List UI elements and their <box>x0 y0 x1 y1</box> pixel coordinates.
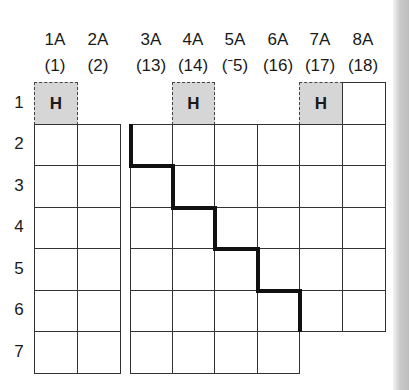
cell <box>172 165 215 208</box>
stair-segment <box>171 164 175 209</box>
cell <box>172 290 215 332</box>
cell <box>130 165 173 208</box>
cell <box>214 248 258 291</box>
cell <box>257 207 300 249</box>
group-label-5a: 5A <box>213 30 257 50</box>
cell <box>299 290 343 332</box>
cell <box>77 124 121 166</box>
cell <box>299 248 343 291</box>
group-number-16: (16) <box>254 56 302 76</box>
page-edge-shadow <box>393 0 409 390</box>
cell <box>214 331 258 374</box>
cell <box>342 165 386 208</box>
cell <box>342 124 386 166</box>
period-label-3: 3 <box>12 176 26 196</box>
hydrogen-cell-4a: H <box>172 82 215 125</box>
cell <box>172 124 215 166</box>
cell <box>77 248 121 291</box>
cell <box>77 331 121 374</box>
group-label-6a: 6A <box>256 30 300 50</box>
cell <box>130 124 173 166</box>
group-number-18: (18) <box>339 56 387 76</box>
cell <box>257 331 300 374</box>
group-label-2a: 2A <box>76 30 120 50</box>
cell <box>172 207 215 249</box>
group-number-17: (17) <box>296 56 344 76</box>
period-label-1: 1 <box>12 93 26 113</box>
hydrogen-cell-1a: H <box>34 82 78 125</box>
stair-segment <box>256 247 260 292</box>
cell <box>257 165 300 208</box>
cell <box>77 165 121 208</box>
group-number-15: (ˉ5) <box>211 56 259 76</box>
cell <box>172 248 215 291</box>
cell <box>34 207 78 249</box>
group-label-1a: 1A <box>33 30 77 50</box>
group-number-14: (14) <box>169 56 217 76</box>
cell <box>77 290 121 332</box>
stair-segment <box>213 247 259 251</box>
period-label-6: 6 <box>12 300 26 320</box>
stair-segment <box>298 289 302 332</box>
period-label-2: 2 <box>12 134 26 154</box>
cell <box>34 331 78 374</box>
period-label-5: 5 <box>12 259 26 279</box>
group-label-8a: 8A <box>341 30 385 50</box>
cell <box>130 331 173 374</box>
group-label-4a: 4A <box>171 30 215 50</box>
cell <box>130 248 173 291</box>
cell <box>77 207 121 249</box>
period-label-7: 7 <box>12 342 26 362</box>
stair-segment <box>171 206 216 210</box>
stair-segment <box>129 164 174 168</box>
cell <box>172 331 215 374</box>
cell <box>257 124 300 166</box>
cell <box>299 207 343 249</box>
cell <box>34 248 78 291</box>
hydrogen-cell-7a: H <box>299 82 343 125</box>
cell <box>214 165 258 208</box>
cell-p1-8a <box>342 82 386 125</box>
cell <box>34 124 78 166</box>
group-number-1: (1) <box>33 56 77 76</box>
stair-segment <box>256 289 301 293</box>
group-number-2: (2) <box>76 56 120 76</box>
cell <box>214 290 258 332</box>
cell <box>342 248 386 291</box>
cell <box>299 165 343 208</box>
cell <box>257 248 300 291</box>
cell <box>257 290 300 332</box>
cell <box>130 207 173 249</box>
period-label-4: 4 <box>12 217 26 237</box>
stair-segment <box>129 124 133 167</box>
group-number-13: (13) <box>127 56 175 76</box>
cell <box>34 165 78 208</box>
cell <box>130 290 173 332</box>
group-label-7a: 7A <box>298 30 342 50</box>
cell <box>214 124 258 166</box>
cell <box>342 290 386 332</box>
cell <box>299 124 343 166</box>
cell <box>342 207 386 249</box>
cell <box>214 207 258 249</box>
group-label-3a: 3A <box>129 30 173 50</box>
stair-segment <box>213 206 217 250</box>
cell <box>34 290 78 332</box>
